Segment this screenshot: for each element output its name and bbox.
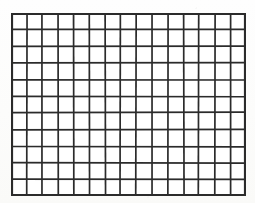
grid-cell[interactable]	[125, 83, 141, 100]
grid-cell[interactable]	[0, 150, 16, 167]
grid-cell[interactable]	[141, 83, 157, 100]
grid-cell[interactable]	[125, 67, 141, 84]
grid-cell[interactable]	[0, 67, 16, 84]
grid-cell[interactable]	[110, 50, 126, 67]
grid-cell[interactable]	[94, 150, 110, 167]
grid-cell[interactable]	[31, 17, 47, 34]
grid-cell[interactable]	[172, 133, 188, 150]
grid-cell[interactable]	[0, 100, 16, 117]
grid-cell[interactable]	[125, 33, 141, 50]
grid-cell[interactable]	[78, 0, 94, 17]
grid-cell[interactable]	[141, 100, 157, 117]
grid-cell[interactable]	[16, 83, 32, 100]
grid-cell[interactable]	[94, 33, 110, 50]
grid-cell[interactable]	[141, 116, 157, 133]
grid-cell[interactable]	[219, 116, 235, 133]
grid-cell[interactable]	[47, 33, 63, 50]
grid-cell[interactable]	[188, 67, 204, 84]
grid-cell[interactable]	[172, 116, 188, 133]
grid-cell[interactable]	[31, 133, 47, 150]
grid-cell[interactable]	[219, 0, 235, 17]
grid-cell[interactable]	[31, 83, 47, 100]
grid-cell[interactable]	[94, 166, 110, 183]
grid-cell[interactable]	[94, 50, 110, 67]
grid-cell[interactable]	[63, 166, 79, 183]
grid-cell[interactable]	[204, 17, 220, 34]
grid-cell[interactable]	[219, 166, 235, 183]
grid-cell[interactable]	[0, 50, 16, 67]
grid-cell[interactable]	[110, 0, 126, 17]
grid-cell[interactable]	[94, 17, 110, 34]
grid-cell[interactable]	[63, 33, 79, 50]
grid-cell[interactable]	[16, 50, 32, 67]
grid-cell[interactable]	[47, 0, 63, 17]
grid-cell[interactable]	[125, 166, 141, 183]
grid-cell[interactable]	[172, 67, 188, 84]
grid-cell[interactable]	[141, 166, 157, 183]
grid-cell[interactable]	[125, 17, 141, 34]
grid-cell[interactable]	[188, 50, 204, 67]
grid-cell[interactable]	[63, 133, 79, 150]
grid-cell[interactable]	[94, 83, 110, 100]
grid-cell[interactable]	[0, 166, 16, 183]
grid-cell[interactable]	[110, 67, 126, 84]
grid-cell[interactable]	[219, 33, 235, 50]
grid-cell[interactable]	[0, 116, 16, 133]
grid-cell[interactable]	[47, 133, 63, 150]
grid-cell[interactable]	[94, 116, 110, 133]
grid-cell[interactable]	[31, 116, 47, 133]
grid-cell[interactable]	[94, 100, 110, 117]
grid-cell[interactable]	[63, 116, 79, 133]
grid-cell[interactable]	[219, 17, 235, 34]
grid-cell[interactable]	[157, 100, 173, 117]
grid-cell[interactable]	[141, 33, 157, 50]
grid-cell[interactable]	[63, 83, 79, 100]
grid-cell[interactable]	[219, 100, 235, 117]
grid-cell[interactable]	[188, 150, 204, 167]
grid-cell[interactable]	[188, 0, 204, 17]
grid-cell[interactable]	[204, 50, 220, 67]
grid-cell[interactable]	[78, 33, 94, 50]
grid-cell[interactable]	[157, 83, 173, 100]
grid-cell[interactable]	[188, 83, 204, 100]
grid-cell[interactable]	[16, 67, 32, 84]
grid-cell[interactable]	[110, 150, 126, 167]
grid-cell[interactable]	[78, 133, 94, 150]
grid-cell[interactable]	[188, 133, 204, 150]
grid-cell[interactable]	[141, 0, 157, 17]
grid-cell[interactable]	[16, 166, 32, 183]
grid-cell[interactable]	[16, 33, 32, 50]
grid-cell[interactable]	[16, 133, 32, 150]
grid-cell[interactable]	[63, 50, 79, 67]
grid-cell[interactable]	[16, 116, 32, 133]
grid-cell[interactable]	[172, 100, 188, 117]
grid-cell[interactable]	[31, 50, 47, 67]
grid-cell[interactable]	[0, 83, 16, 100]
grid-cell[interactable]	[78, 67, 94, 84]
grid-cell[interactable]	[157, 133, 173, 150]
grid-cell[interactable]	[16, 0, 32, 17]
grid-cell[interactable]	[94, 67, 110, 84]
grid-cell[interactable]	[78, 100, 94, 117]
grid-cell[interactable]	[63, 150, 79, 167]
grid-cell[interactable]	[47, 17, 63, 34]
grid-cell[interactable]	[172, 17, 188, 34]
grid-cell[interactable]	[188, 116, 204, 133]
grid-cell[interactable]	[172, 0, 188, 17]
grid-cell[interactable]	[157, 50, 173, 67]
grid-cell[interactable]	[110, 166, 126, 183]
grid-cell[interactable]	[16, 100, 32, 117]
grid-cell[interactable]	[47, 150, 63, 167]
grid-cell[interactable]	[94, 0, 110, 17]
grid-cell[interactable]	[31, 100, 47, 117]
grid-cell[interactable]	[0, 0, 16, 17]
grid-cell[interactable]	[157, 150, 173, 167]
grid-cell[interactable]	[157, 67, 173, 84]
grid-cell[interactable]	[188, 17, 204, 34]
grid-cell[interactable]	[125, 150, 141, 167]
grid-cell[interactable]	[204, 133, 220, 150]
grid-cell[interactable]	[78, 83, 94, 100]
grid-cell[interactable]	[110, 116, 126, 133]
grid-cell[interactable]	[47, 166, 63, 183]
grid-cell[interactable]	[47, 67, 63, 84]
